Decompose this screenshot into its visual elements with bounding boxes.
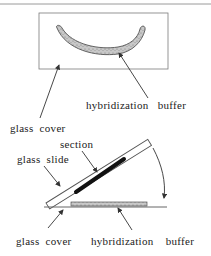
label-glass-cover-bottom: glass cover <box>16 235 72 247</box>
label-glass-cover-top: glass cover <box>10 122 66 134</box>
label-glass-slide: glass slide <box>17 153 69 165</box>
label-hybridization-buffer-top: hybridization buffer <box>86 99 186 111</box>
hybridization-setup-diagram: hybridization buffer glass cover section… <box>0 0 211 256</box>
section-pointer <box>82 151 97 172</box>
label-hybridization-buffer-bottom: hybridization buffer <box>91 235 194 247</box>
label-section: section <box>60 138 93 150</box>
cover-pointer-top <box>40 65 59 118</box>
slide-pointer <box>44 166 60 186</box>
tissue-section <box>76 159 124 192</box>
lowering-arc-arrow <box>153 148 165 198</box>
cover-pointer-bottom <box>48 210 63 228</box>
glass-cover-top <box>39 13 168 69</box>
buffer-pointer-bottom <box>118 208 132 230</box>
hybridization-buffer-layer <box>71 202 147 206</box>
